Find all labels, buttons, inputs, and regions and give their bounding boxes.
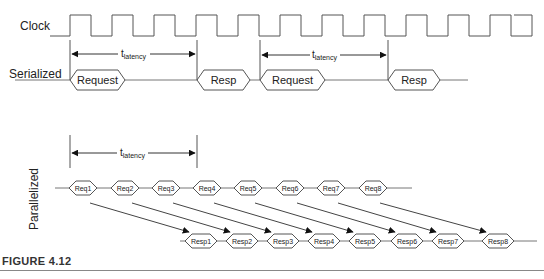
request-block-2-label: Req2	[117, 185, 134, 193]
response-block-3-label: Resp3	[273, 238, 293, 246]
response-block-7-label: Resp7	[438, 238, 458, 246]
resp-block-2-label: Resp	[211, 74, 237, 86]
latency-label-2: tlatency	[312, 49, 337, 62]
response-block-6-label: Resp6	[397, 238, 417, 246]
request-block-3-label: Request	[272, 74, 313, 86]
request-block-7: Req7	[317, 181, 345, 195]
response-block-2: Resp2	[226, 234, 258, 248]
response-block-6: Resp6	[391, 234, 423, 248]
clock-waveform	[50, 15, 532, 36]
response-block-5: Resp5	[349, 234, 381, 248]
caption-rule	[0, 270, 544, 271]
resp-block-4-label: Resp	[401, 74, 427, 86]
request-block-7-label: Req7	[323, 185, 340, 193]
timing-diagram: Clock Serialized RequestRespRequestResp …	[0, 0, 544, 279]
figure-caption: FIGURE 4.12	[2, 255, 71, 267]
response-block-3: Resp3	[267, 234, 299, 248]
request-block-6: Req6	[276, 181, 304, 195]
response-block-1: Resp1	[185, 234, 217, 248]
response-block-4: Resp4	[308, 234, 340, 248]
request-block-1-label: Req1	[75, 185, 92, 193]
response-block-4-label: Resp4	[314, 238, 334, 246]
response-block-2-label: Resp2	[232, 238, 252, 246]
response-block-8: Resp8	[482, 234, 514, 248]
resp-block-2: Resp	[197, 70, 250, 90]
arrow-6	[297, 203, 395, 232]
request-block-4: Req4	[193, 181, 221, 195]
request-block-4-label: Req4	[199, 185, 216, 193]
response-block-7: Resp7	[432, 234, 464, 248]
arrow-7	[338, 203, 436, 232]
request-block-5: Req5	[234, 181, 262, 195]
request-block-1: Request	[70, 70, 125, 90]
arrow-3	[173, 203, 271, 232]
response-block-5-label: Resp5	[355, 238, 375, 246]
serialized-label: Serialized	[9, 67, 62, 81]
request-block-8: Req8	[359, 181, 387, 195]
latency-label-1: tlatency	[121, 48, 146, 61]
request-block-3: Req3	[152, 181, 180, 195]
arrow-5	[255, 203, 353, 232]
resp-block-4: Resp	[388, 70, 440, 90]
parallelized-timeline: Req1Req2Req3Req4Req5Req6Req7Req8Resp1Res…	[55, 181, 537, 248]
parallelized-label: Parallelized	[27, 168, 41, 230]
response-block-8-label: Resp8	[488, 238, 508, 246]
arrow-2	[132, 203, 230, 232]
serialized-timeline: RequestRespRequestResp	[15, 70, 468, 90]
request-block-1-label: Request	[77, 74, 118, 86]
request-block-8-label: Req8	[365, 185, 382, 193]
request-block-2: Req2	[111, 181, 139, 195]
arrow-1	[90, 203, 189, 232]
clock-label: Clock	[20, 19, 51, 33]
latency-marker-parallel: tlatency	[70, 135, 197, 168]
request-block-3-label: Req3	[158, 185, 175, 193]
arrow-4	[214, 203, 312, 232]
request-block-3: Request	[260, 70, 325, 90]
latency-label-parallel: tlatency	[120, 147, 145, 160]
request-block-1: Req1	[69, 181, 97, 195]
request-block-6-label: Req6	[282, 185, 299, 193]
arrow-8	[380, 203, 486, 232]
request-block-5-label: Req5	[240, 185, 257, 193]
response-block-1-label: Resp1	[191, 238, 211, 246]
